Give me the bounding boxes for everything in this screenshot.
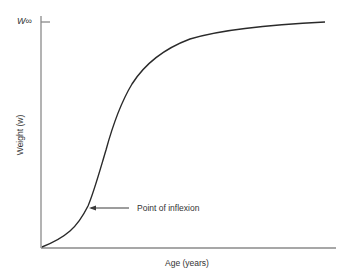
y-axis-label: Weight (w)	[15, 115, 25, 155]
x-axis-label: Age (years)	[165, 258, 209, 268]
growth-curve	[42, 22, 325, 247]
asymptote-label: W∞	[17, 16, 32, 26]
inflexion-annotation: Point of inflexion	[137, 203, 199, 213]
growth-chart	[0, 0, 350, 279]
arrow-head-icon	[89, 206, 96, 211]
